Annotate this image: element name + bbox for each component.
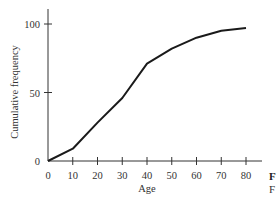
x-tick-label: 0 (45, 170, 50, 181)
figure-caption-label: F (269, 170, 276, 182)
x-tick-label: 20 (92, 170, 103, 181)
x-tick-label: 10 (68, 170, 79, 181)
x-tick-label: 30 (117, 170, 128, 181)
axes (48, 9, 262, 161)
x-tick-labels: 01020304050607080 (45, 170, 251, 181)
y-axis-title: Cumulative frequency (9, 44, 20, 138)
x-tick-label: 80 (241, 170, 252, 181)
y-tick-label: 0 (35, 156, 40, 167)
x-tick-label: 50 (167, 170, 178, 181)
x-tick-label: 40 (142, 170, 153, 181)
y-tick-label: 50 (30, 88, 41, 99)
cumulative-frequency-line (48, 28, 246, 161)
cumulative-frequency-chart: 01020304050607080 050100 Age Cumulative … (0, 0, 276, 207)
y-tick-labels: 050100 (24, 19, 40, 167)
figure-caption-text: F (269, 183, 275, 195)
x-axis-title: Age (138, 183, 156, 194)
x-tick-label: 70 (216, 170, 227, 181)
y-tick-label: 100 (24, 19, 40, 30)
x-tick-label: 60 (191, 170, 202, 181)
